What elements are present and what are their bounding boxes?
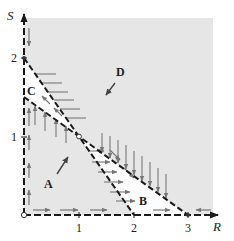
r-tick-2: 2 xyxy=(131,221,137,235)
s-tick-1: 1 xyxy=(11,130,17,144)
region-b-label: B xyxy=(139,194,147,208)
equilibrium-interior xyxy=(77,134,82,139)
s-tick-2: 2 xyxy=(11,51,17,65)
equilibrium-origin xyxy=(21,212,26,217)
equilibrium-s-intercept xyxy=(22,56,26,60)
region-a-label: A xyxy=(44,177,53,191)
region-c-label: C xyxy=(27,84,36,98)
equilibrium-r-intercept xyxy=(186,213,190,217)
r-axis-label: R xyxy=(212,219,221,234)
region-d-label: D xyxy=(116,65,125,79)
r-tick-3: 3 xyxy=(185,221,191,235)
s-axis-label: S xyxy=(7,8,14,23)
phase-plane-figure: S R 1 2 3 1 2 A B C D xyxy=(0,0,234,241)
r-tick-1: 1 xyxy=(76,221,82,235)
